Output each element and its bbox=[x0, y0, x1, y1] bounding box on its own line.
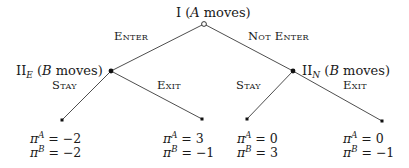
decision-node-marker-icon bbox=[109, 69, 114, 74]
payoff-A: πA = 0 bbox=[236, 130, 278, 146]
payoff-B: πB = −1 bbox=[342, 144, 394, 160]
payoff-t3: πA = 0 πB = 3 bbox=[236, 130, 278, 160]
payoff-B: πB = −1 bbox=[162, 144, 214, 160]
terminal-nodes bbox=[61, 118, 384, 123]
root-node-marker-icon bbox=[202, 22, 207, 27]
payoff-A: πA = 3 bbox=[162, 130, 204, 146]
root-node: I(A moves) bbox=[176, 5, 251, 26]
edge-label-enter: Enter bbox=[114, 29, 149, 43]
payoff-A: πA = 0 bbox=[342, 130, 384, 146]
edge-label-exit-IIN: Exit bbox=[343, 78, 367, 92]
payoff-B: πB = 3 bbox=[236, 144, 278, 160]
edge-label-stay-IIN: Stay bbox=[236, 78, 261, 92]
decision-node-marker-icon bbox=[291, 69, 296, 74]
payoff-A: πA = −2 bbox=[29, 130, 81, 146]
edge-label-exit-IIE: Exit bbox=[157, 78, 181, 92]
game-tree-diagram: I(A moves) IIE (B moves) IIN (B moves) E… bbox=[0, 0, 409, 168]
root-node-label: I(A moves) bbox=[176, 5, 251, 20]
edge-label-stay-IIE: Stay bbox=[52, 78, 77, 92]
terminal-node-marker-icon bbox=[61, 119, 64, 122]
terminal-node-marker-icon bbox=[381, 120, 384, 123]
terminal-node-marker-icon bbox=[246, 118, 249, 121]
payoff-t2: πA = 3 πB = −1 bbox=[162, 130, 214, 160]
payoff-t4: πA = 0 πB = −1 bbox=[342, 130, 394, 160]
payoff-B: πB = −2 bbox=[29, 144, 81, 160]
edge-IIN-exit bbox=[293, 71, 382, 121]
decision-node-II-N: IIN (B moves) bbox=[291, 63, 390, 80]
payoff-t1: πA = −2 πB = −2 bbox=[29, 130, 81, 160]
edge-label-not-enter: Not Enter bbox=[248, 29, 310, 43]
terminal-node-marker-icon bbox=[201, 118, 204, 121]
